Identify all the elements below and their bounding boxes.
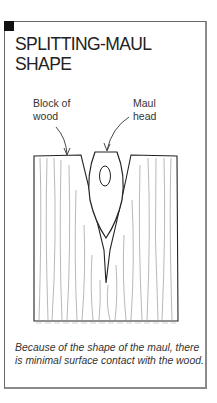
figure-caption: Because of the shape of the maul, there …	[15, 341, 205, 367]
leader-arrows	[56, 117, 129, 155]
maul-head-shape	[89, 152, 123, 238]
